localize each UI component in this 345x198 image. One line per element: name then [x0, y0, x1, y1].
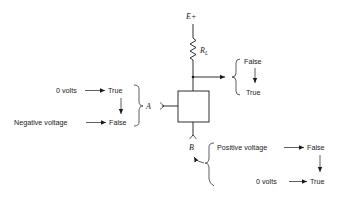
input-b-voltage-1: 0 volts [256, 177, 277, 186]
output-state-true: True [246, 88, 261, 97]
input-a-voltage-0: 0 volts [56, 86, 77, 95]
gate-box [178, 91, 209, 122]
input-b-label: B [189, 143, 194, 152]
resistor-subscript: L [204, 50, 208, 56]
input-a-label: A [145, 102, 151, 111]
input-a-logic-0: True [108, 86, 123, 95]
resistor-label: RL [199, 46, 208, 56]
input-a-logic-1: False [109, 118, 127, 127]
output-brace [232, 59, 240, 95]
resistor-icon [190, 38, 196, 60]
input-b-brace [205, 143, 214, 186]
circuit-diagram: E+ RL False True A 0 volts True Negative… [0, 0, 345, 198]
input-b-logic-1: True [310, 177, 325, 186]
input-a-brace [134, 85, 143, 126]
input-b-voltage-0: Positive voltage [217, 143, 267, 152]
input-b-logic-0: False [307, 143, 325, 152]
output-state-false: False [244, 57, 262, 66]
supply-label: E+ [185, 12, 196, 21]
input-b-pointer-arrow [194, 157, 204, 163]
input-a-voltage-1: Negative voltage [14, 118, 68, 127]
